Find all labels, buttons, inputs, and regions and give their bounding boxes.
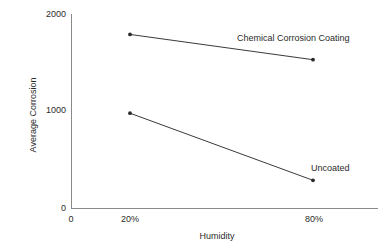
- y-tick-label-1000: 1000: [46, 105, 66, 115]
- chart-canvas: 2000 1000 0 0 20% 80% Average Corrosion …: [0, 0, 384, 249]
- corrosion-line-chart: 2000 1000 0 0 20% 80% Average Corrosion …: [0, 0, 384, 249]
- series-line-uncoated: [130, 113, 313, 180]
- series-marker-coated-80: [311, 58, 315, 62]
- series-marker-coated-20: [128, 33, 132, 37]
- y-tick-label-2000: 2000: [46, 9, 66, 19]
- x-axis-title: Humidity: [199, 231, 235, 241]
- series-annotation-coated: Chemical Corrosion Coating: [237, 33, 350, 43]
- x-tick-label-origin: 0: [68, 214, 73, 224]
- series-marker-uncoated-80: [311, 178, 315, 182]
- x-tick-label-80: 80%: [305, 214, 323, 224]
- x-tick-label-20: 20%: [121, 214, 139, 224]
- y-tick-label-0: 0: [61, 203, 66, 213]
- series-marker-uncoated-20: [128, 111, 132, 115]
- y-axis-title: Average Corrosion: [28, 78, 38, 153]
- series-annotation-uncoated: Uncoated: [311, 163, 350, 173]
